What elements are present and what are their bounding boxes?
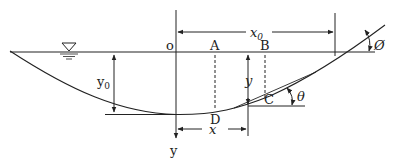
label-y-axis: y [169,143,178,158]
label-phi: Ø [373,38,385,53]
label-a: A [209,38,220,53]
label-c: C [264,92,274,107]
label-x0: x0 [250,25,263,42]
label-y0: y0 [96,74,110,91]
label-origin: o [166,38,174,53]
label-theta: θ [297,89,305,104]
channel-profile-curve [10,25,385,115]
channel-diagram: o A B C D x0 y0 y x y θ Ø [0,0,395,160]
water-level-icon [60,43,78,59]
label-x-dist: x [209,122,217,137]
phi-angle-arc [365,30,370,51]
label-y-depth: y [244,73,253,88]
theta-angle-arc [287,88,292,105]
